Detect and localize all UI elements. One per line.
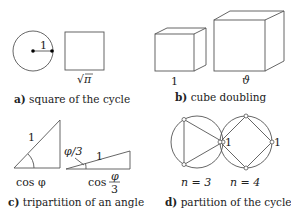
angle-label-2: φ/3	[64, 145, 82, 158]
pi-symbol: π	[83, 73, 92, 86]
polygon-vertex	[244, 114, 248, 118]
polygon-vertex	[182, 117, 186, 121]
caption-d: d) partition of the cycle	[165, 196, 291, 208]
angle-arc-phi	[28, 154, 34, 168]
polygon-vertex	[244, 166, 248, 170]
n3-label: n = 3	[181, 176, 211, 189]
polygon-vertex	[218, 140, 222, 144]
adj-label-2-den: 3	[111, 183, 118, 196]
radius-label: 1	[40, 39, 47, 52]
caption-a: a) square of the cycle	[14, 93, 130, 105]
polygon-vertex	[182, 163, 186, 167]
figure: 1 √π a) square of the cycle 1 ϑ b) cube …	[0, 0, 291, 215]
center-dot	[31, 49, 35, 53]
caption-b: b) cube doubling	[175, 91, 267, 103]
square	[65, 32, 104, 70]
hyp-label-2: 1	[96, 150, 103, 163]
small-cube-label: 1	[171, 75, 178, 88]
panel-a: 1 √π a) square of the cycle	[13, 31, 130, 105]
panel-c: 1 cos φ φ/3 1 cos φ 3 c) tripartition of…	[8, 120, 144, 208]
angle-pointer	[75, 158, 84, 165]
panel-d: 1 1 n = 3 n = 4 d) partition of the cycl…	[165, 114, 291, 208]
small-cube	[155, 28, 206, 71]
square-side-label: √π	[77, 73, 92, 86]
large-cube-label: ϑ	[242, 74, 250, 87]
angle-arc-phi-third	[86, 164, 87, 170]
caption-c: c) tripartition of an angle	[8, 196, 144, 208]
vertex-label-n3: 1	[225, 136, 232, 149]
n4-label: n = 4	[230, 176, 260, 189]
adj-label-2-num: φ	[111, 170, 119, 183]
adj-label-2-prefix: cos	[88, 176, 107, 189]
vertex-label-n4: 1	[274, 136, 281, 149]
radius-end-dot	[50, 49, 54, 53]
circle-n3	[171, 116, 223, 168]
hyp-label-1: 1	[28, 131, 35, 144]
panel-b: 1 ϑ b) cube doubling	[155, 11, 284, 103]
adj-label-1: cos φ	[16, 176, 46, 189]
large-cube	[214, 11, 284, 71]
triangle-phi	[14, 120, 60, 168]
